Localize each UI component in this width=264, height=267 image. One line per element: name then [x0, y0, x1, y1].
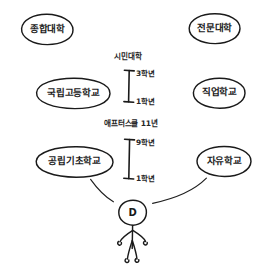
grade-label-bottom: 1학년 [136, 174, 155, 183]
stage-after-school: 애프터스쿨 11년 9학년 1학년 [104, 118, 158, 182]
node-jeonmun-daehak[interactable]: 전문대학 [189, 14, 240, 44]
stage-label: 시민대학 [114, 51, 141, 61]
stage-label: 애프터스쿨 11년 [104, 118, 158, 128]
node-label: 자유학교 [207, 155, 242, 166]
grade-label-top: 3학년 [136, 69, 155, 78]
grade-label-top: 9학년 [136, 138, 155, 147]
node-gungnip-godeunghakgyo[interactable]: 국립고등학교 [37, 78, 110, 108]
stick-figure-student[interactable]: D [118, 200, 148, 262]
node-jonghap-daehak[interactable]: 종합대학 [22, 14, 73, 44]
stage-axis [124, 70, 134, 102]
stage-simin-daehak: 시민대학 3학년 1학년 [114, 51, 154, 105]
connector-right-curve [153, 178, 207, 203]
grade-label-bottom: 1학년 [136, 97, 155, 106]
node-gongnip-gicho-hakgyo[interactable]: 공립기초학교 [36, 147, 113, 177]
education-pathway-diagram: 종합대학 전문대학 시민대학 3학년 1학년 국립고등학교 직업학교 애프터스쿨… [0, 0, 264, 267]
figure-left-arm [120, 231, 132, 242]
connector-left-curve [91, 179, 114, 201]
node-label: 직업학교 [202, 86, 237, 97]
node-label: 종합대학 [30, 23, 65, 34]
figure-left-leg [127, 241, 132, 259]
node-label: 공립기초학교 [48, 155, 101, 166]
figure-right-arm [133, 230, 146, 241]
node-label: 국립고등학교 [47, 87, 100, 98]
figure-label: D [128, 207, 136, 218]
node-label: 전문대학 [197, 22, 232, 33]
stage-axis [124, 139, 135, 179]
node-jigeop-hakgyo[interactable]: 직업학교 [193, 78, 245, 108]
figure-right-leg [132, 241, 137, 259]
node-jayu-hakgyo[interactable]: 자유학교 [197, 146, 251, 176]
